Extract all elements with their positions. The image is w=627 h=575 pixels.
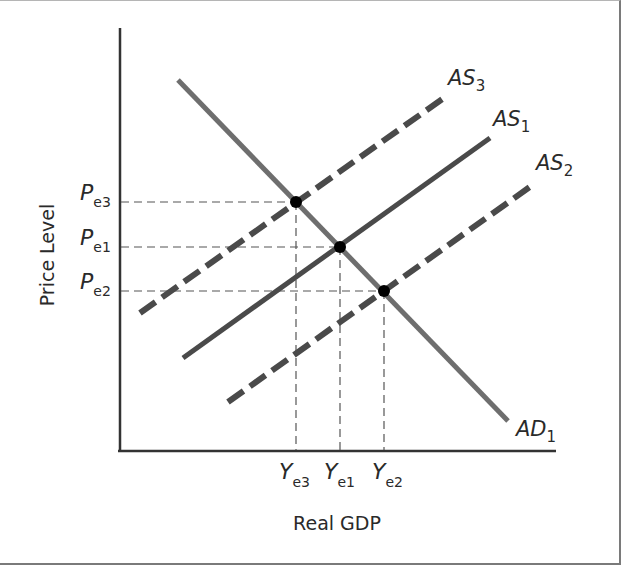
pe3-label: Pe3 [80,180,111,210]
as1-label: AS1 [491,107,530,136]
equilibrium-point-e3 [290,196,302,208]
pe2-label: Pe2 [80,269,111,299]
as3-label: AS3 [446,66,485,95]
equilibrium-point-e1 [334,241,346,253]
ye1-label: Ye1 [324,459,355,490]
pe1-label: Pe1 [80,225,111,255]
ad-as-diagram: AS3 AS1 AS2 AD1 Pe3 Pe1 Pe2 Ye3 Ye1 Ye2 … [0,0,627,575]
equilibrium-point-e2 [378,285,390,297]
y-axis-title: Price Level [36,204,58,307]
ye2-label: Ye2 [372,459,403,490]
ad1-label: AD1 [514,417,556,446]
x-axis-title: Real GDP [293,512,381,534]
as2-label: AS2 [534,151,573,180]
ye3-label: Ye3 [279,459,310,490]
